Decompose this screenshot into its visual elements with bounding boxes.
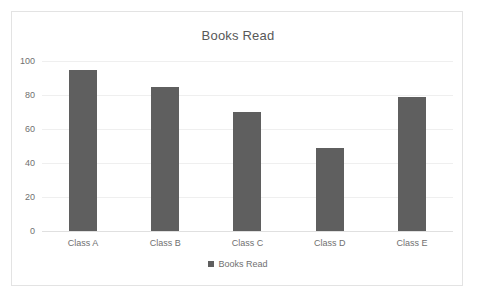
legend-swatch-icon xyxy=(208,261,214,267)
bar-class-d[interactable] xyxy=(316,148,344,231)
chart-title: Books Read xyxy=(12,28,464,43)
bar-class-c[interactable] xyxy=(233,112,261,231)
legend-label-books-read: Books Read xyxy=(218,259,267,269)
xtick-label-class-c: Class C xyxy=(232,238,264,248)
bar-slot-2: Class C xyxy=(206,61,288,231)
ytick-label-60: 60 xyxy=(25,124,35,134)
bar-class-a[interactable] xyxy=(69,70,97,232)
ytick-label-0: 0 xyxy=(30,226,35,236)
bar-class-e[interactable] xyxy=(398,97,426,231)
ytick-label-20: 20 xyxy=(25,192,35,202)
bar-group: Class A Class B Class C Class D Class E xyxy=(42,61,453,231)
ytick-label-80: 80 xyxy=(25,90,35,100)
chart-legend: Books Read xyxy=(12,259,464,269)
axis-baseline: 0 xyxy=(42,231,453,232)
bar-class-b[interactable] xyxy=(151,87,179,232)
chart-container: Books Read 100 80 60 40 20 0 Class A xyxy=(11,11,463,286)
plot-area: 100 80 60 40 20 0 Class A Class B xyxy=(42,61,453,231)
bar-slot-1: Class B xyxy=(124,61,206,231)
bar-slot-4: Class E xyxy=(371,61,453,231)
bar-slot-3: Class D xyxy=(289,61,371,231)
ytick-label-100: 100 xyxy=(20,56,35,66)
ytick-label-40: 40 xyxy=(25,158,35,168)
bar-slot-0: Class A xyxy=(42,61,124,231)
xtick-label-class-a: Class A xyxy=(68,238,99,248)
xtick-label-class-e: Class E xyxy=(396,238,427,248)
xtick-label-class-b: Class B xyxy=(150,238,181,248)
xtick-label-class-d: Class D xyxy=(314,238,346,248)
